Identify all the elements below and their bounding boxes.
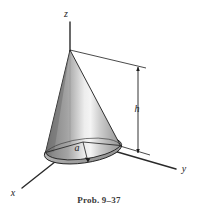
radius-label: a bbox=[75, 142, 80, 153]
height-label: h bbox=[135, 103, 140, 114]
z-axis-label: z bbox=[63, 8, 68, 19]
figure-container: z y x h a Prob. 9–37 bbox=[0, 0, 198, 214]
cone-solid bbox=[43, 50, 124, 168]
figure-caption: Prob. 9–37 bbox=[0, 195, 198, 205]
y-axis-label: y bbox=[181, 163, 187, 174]
cone-diagram: z y x h a bbox=[0, 0, 198, 214]
height-leader-top bbox=[70, 50, 146, 68]
